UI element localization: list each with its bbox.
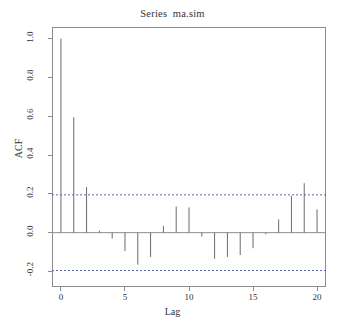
x-tick-label: 0	[49, 292, 73, 302]
y-tick-mark	[48, 271, 52, 272]
y-tick-label: 0.8	[25, 61, 35, 89]
y-axis-title: ACF	[13, 119, 24, 179]
y-tick-mark	[48, 116, 52, 117]
y-tick-mark	[48, 155, 52, 156]
acf-plot-figure: Series ma.sim -0.20.00.20.40.60.81.0 051…	[0, 0, 345, 332]
x-tick-mark	[124, 287, 125, 291]
x-tick-label: 20	[305, 292, 329, 302]
x-tick-mark	[253, 287, 254, 291]
y-tick-label: -0.2	[25, 255, 35, 283]
x-axis-title: Lag	[0, 306, 345, 317]
y-tick-mark	[48, 38, 52, 39]
x-tick-label: 10	[177, 292, 201, 302]
y-tick-label: 0.0	[25, 217, 35, 245]
y-tick-label: 0.2	[25, 178, 35, 206]
y-tick-label: 0.4	[25, 139, 35, 167]
x-tick-mark	[317, 287, 318, 291]
y-tick-mark	[48, 193, 52, 194]
y-tick-mark	[48, 77, 52, 78]
y-tick-label: 1.0	[25, 23, 35, 51]
plot-title: Series ma.sim	[0, 8, 345, 19]
x-tick-label: 5	[113, 292, 137, 302]
plot-canvas	[52, 27, 326, 287]
y-tick-label: 0.6	[25, 100, 35, 128]
acf-spike-group	[61, 39, 317, 265]
y-tick-mark	[48, 232, 52, 233]
x-tick-label: 15	[241, 292, 265, 302]
x-tick-mark	[60, 287, 61, 291]
x-tick-mark	[189, 287, 190, 291]
